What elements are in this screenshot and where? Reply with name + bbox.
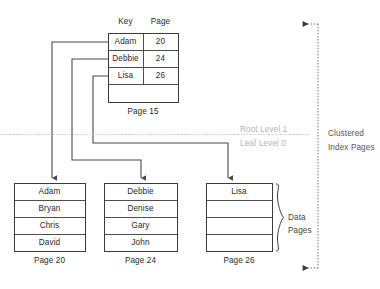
data-page-0-row-0: Adam [14, 188, 85, 196]
clustered-index-pages-label-line2: Index Pages [328, 142, 375, 153]
connector-adam-to-page20 [52, 42, 109, 178]
data-pages-label-line2: Pages [288, 225, 312, 236]
data-page-0-label: Page 20 [14, 257, 85, 265]
root-row-1-page: 24 [143, 55, 178, 63]
data-page-2-label: Page 26 [206, 257, 272, 265]
root-page-label: Page 15 [108, 108, 178, 116]
root-row-2-page: 26 [143, 72, 178, 80]
data-page-1-label: Page 24 [104, 257, 177, 265]
data-page-1-row-3: John [104, 239, 177, 247]
data-page-1-row-1: Denise [104, 205, 177, 213]
root-row-0-key: Adam [108, 38, 143, 46]
leaf-level-label: Leaf Level 0 [240, 140, 286, 148]
data-page-0-row-3: David [14, 239, 85, 247]
data-page-1-row-2: Gary [104, 222, 177, 230]
root-row-1-key: Debbie [108, 55, 143, 63]
root-row-0-page: 20 [143, 38, 178, 46]
root-row-2-key: Lisa [108, 72, 143, 80]
data-page-0-row-1: Bryan [14, 205, 85, 213]
root-column-header-key: Key [108, 18, 143, 26]
data-pages-brace [276, 184, 284, 251]
data-page-1-row-0: Debbie [104, 188, 177, 196]
data-page-2-row-0: Lisa [206, 188, 272, 196]
clustered-index-diagram: Key Page Adam 20 Debbie 24 Lisa 26 Page … [0, 0, 380, 289]
data-pages-label-line1: Data [288, 212, 306, 223]
root-column-header-page: Page [143, 18, 178, 26]
root-level-label: Root Level 1 [240, 126, 287, 134]
data-page-0-row-2: Chris [14, 222, 85, 230]
clustered-index-pages-label-line1: Clustered [328, 128, 364, 139]
